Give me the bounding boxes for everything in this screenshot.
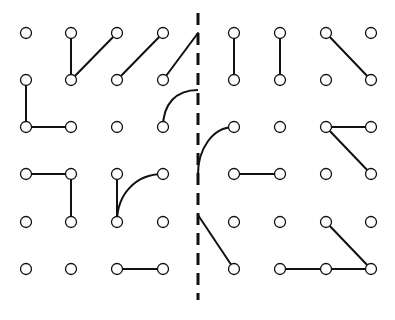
grid-dot: [321, 264, 332, 275]
grid-dot: [229, 264, 240, 275]
grid-dot: [229, 169, 240, 180]
arc-segment: [163, 90, 198, 127]
grid-dot: [321, 75, 332, 86]
grid-dot: [112, 169, 123, 180]
grid-dot: [112, 28, 123, 39]
grid-dot: [275, 122, 286, 133]
grid-dot: [66, 28, 77, 39]
grid-dot: [21, 264, 32, 275]
grid-dot: [366, 122, 377, 133]
grid-dot: [158, 28, 169, 39]
grid-dot: [229, 122, 240, 133]
grid-dot: [158, 264, 169, 275]
grid-dot: [366, 75, 377, 86]
grid-dot: [112, 75, 123, 86]
diagram-canvas: [0, 0, 395, 320]
grid-dot: [366, 28, 377, 39]
grid-dot: [21, 75, 32, 86]
grid-dot: [275, 28, 286, 39]
line-segment: [326, 127, 371, 174]
grid-dot: [229, 28, 240, 39]
grid-dot: [275, 75, 286, 86]
grid-dot: [158, 217, 169, 228]
line-segment: [163, 33, 198, 80]
arc-segment: [198, 127, 234, 174]
grid-dot: [21, 122, 32, 133]
curved-segments: [117, 90, 234, 222]
line-segment: [326, 33, 371, 80]
grid-dot: [321, 122, 332, 133]
grid-dot: [158, 75, 169, 86]
arc-segment: [117, 174, 163, 222]
grid-dot: [366, 169, 377, 180]
grid-dot: [112, 264, 123, 275]
grid-dot: [275, 217, 286, 228]
grid-dot: [21, 217, 32, 228]
grid-dot: [366, 217, 377, 228]
grid-dot: [66, 122, 77, 133]
grid-dot: [321, 28, 332, 39]
grid-dot: [321, 169, 332, 180]
grid-dot: [229, 75, 240, 86]
grid-dot: [112, 217, 123, 228]
grid-dot: [21, 169, 32, 180]
grid-dot: [321, 217, 332, 228]
grid-dot: [275, 264, 286, 275]
grid-dot: [275, 169, 286, 180]
symmetry-dot-grid-diagram: [0, 0, 395, 320]
grid-dot: [66, 169, 77, 180]
grid-dot: [66, 217, 77, 228]
grid-dot: [112, 122, 123, 133]
grid-dot: [21, 28, 32, 39]
grid-dot: [229, 217, 240, 228]
line-segment: [326, 222, 371, 269]
grid-dot: [66, 264, 77, 275]
grid-dot: [158, 122, 169, 133]
line-segment: [117, 33, 163, 80]
grid-dot: [158, 169, 169, 180]
line-segment: [71, 33, 117, 80]
grid-dot: [66, 75, 77, 86]
grid-dot: [366, 264, 377, 275]
